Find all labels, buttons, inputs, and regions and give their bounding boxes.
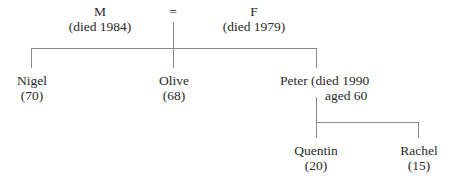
marriage-descent-line [173, 22, 174, 68]
child-olive-note: (68) [144, 88, 204, 103]
grandchild-sibling-line [316, 122, 419, 123]
child-peter-note: aged 60 [325, 88, 367, 103]
child-olive-name: Olive [144, 73, 204, 88]
grandchild-rachel-note: (15) [389, 158, 449, 173]
drop-line-rachel [418, 122, 419, 138]
grandchild-quentin-note: (20) [286, 158, 346, 173]
drop-line-nigel [31, 48, 32, 68]
drop-line-peter [316, 48, 317, 68]
marriage-symbol: = [163, 4, 183, 19]
parent-m-note: (died 1984) [60, 19, 140, 34]
grandchild-rachel-name: Rachel [389, 143, 449, 158]
child-peter-name: Peter (died 1990 [280, 73, 369, 88]
child-nigel-note: (70) [2, 88, 62, 103]
child-nigel-name: Nigel [2, 73, 62, 88]
parent-f-note: (died 1979) [214, 19, 294, 34]
sibling-line [31, 48, 317, 49]
grandchild-quentin-name: Quentin [286, 143, 346, 158]
parent-f-name: F [214, 4, 294, 19]
peter-descent-line [316, 97, 317, 138]
parent-m-name: M [60, 4, 140, 19]
